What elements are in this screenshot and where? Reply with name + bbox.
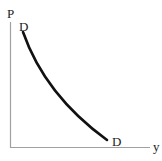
curve-label-end: D	[112, 134, 121, 149]
x-axis-label: y	[153, 139, 160, 154]
y-axis-label: P	[7, 6, 14, 21]
curve-label-start: D	[19, 19, 28, 34]
demand-diagram: P D D y	[0, 0, 162, 161]
demand-curve	[23, 32, 107, 140]
